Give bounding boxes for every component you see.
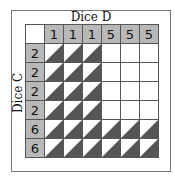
shaded-cell <box>102 120 121 139</box>
row-title: Dice C <box>10 65 26 121</box>
row-header: 6 <box>26 120 45 139</box>
shaded-cell <box>45 82 64 101</box>
empty-cell <box>102 101 121 120</box>
row-header: 2 <box>26 101 45 120</box>
empty-cell <box>102 63 121 82</box>
shaded-cell <box>64 82 83 101</box>
shaded-cell <box>45 120 64 139</box>
outcome-grid: 1 1 1 5 5 5 222266 <box>25 24 159 158</box>
empty-cell <box>140 82 159 101</box>
empty-cell <box>140 63 159 82</box>
shaded-cell <box>83 120 102 139</box>
column-header: 5 <box>140 25 159 44</box>
column-header: 5 <box>102 25 121 44</box>
shaded-cell <box>121 120 140 139</box>
column-header: 5 <box>121 25 140 44</box>
shaded-cell <box>45 44 64 63</box>
shaded-cell <box>83 101 102 120</box>
shaded-cell <box>45 101 64 120</box>
row-header: 2 <box>26 82 45 101</box>
shaded-cell <box>83 44 102 63</box>
row-header: 2 <box>26 44 45 63</box>
shaded-cell <box>45 139 64 158</box>
shaded-cell <box>102 139 121 158</box>
shaded-cell <box>64 139 83 158</box>
shaded-cell <box>64 120 83 139</box>
shaded-cell <box>83 139 102 158</box>
shaded-cell <box>64 44 83 63</box>
empty-cell <box>121 44 140 63</box>
row-header: 6 <box>26 139 45 158</box>
row-header: 2 <box>26 63 45 82</box>
empty-cell <box>102 82 121 101</box>
shaded-cell <box>64 63 83 82</box>
shaded-cell <box>121 139 140 158</box>
column-header: 1 <box>45 25 64 44</box>
shaded-cell <box>83 63 102 82</box>
shaded-cell <box>64 101 83 120</box>
column-header: 1 <box>64 25 83 44</box>
column-title: Dice D <box>25 10 157 24</box>
column-header: 1 <box>83 25 102 44</box>
empty-cell <box>140 101 159 120</box>
empty-cell <box>121 101 140 120</box>
empty-cell <box>102 44 121 63</box>
shaded-cell <box>140 139 159 158</box>
shaded-cell <box>45 63 64 82</box>
corner-cell <box>26 25 45 44</box>
empty-cell <box>140 44 159 63</box>
shaded-cell <box>83 82 102 101</box>
shaded-cell <box>140 120 159 139</box>
empty-cell <box>121 63 140 82</box>
empty-cell <box>121 82 140 101</box>
